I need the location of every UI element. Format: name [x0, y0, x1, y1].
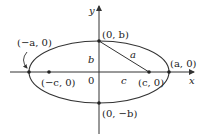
label-segment-b: b: [88, 54, 94, 65]
callout-arrow-icon: [24, 52, 28, 68]
point-right-vertex: [167, 70, 171, 74]
point-bottom-covertex: [97, 101, 101, 105]
point-top-covertex: [97, 39, 101, 43]
label-top-covertex: (0, b): [102, 29, 129, 40]
label-left-vertex: (−a, 0): [17, 37, 52, 48]
y-axis-label: y: [88, 5, 95, 16]
origin-label: 0: [88, 75, 94, 86]
label-right-vertex: (a, 0): [170, 58, 197, 69]
point-left-focus: [47, 70, 51, 74]
point-right-focus: [147, 70, 151, 74]
segment-a: [99, 41, 149, 72]
label-left-focus: (−c, 0): [41, 77, 76, 88]
label-right-focus: (c, 0): [138, 77, 164, 88]
label-segment-a: a: [130, 49, 136, 60]
label-segment-c: c: [121, 75, 127, 86]
ellipse-diagram: y x 0 (0, b) (0, −b) (−a, 0) (a, 0) (−c,…: [0, 0, 206, 139]
label-bottom-covertex: (0, −b): [102, 108, 137, 119]
x-axis-label: x: [189, 75, 195, 86]
point-left-vertex: [27, 70, 31, 74]
